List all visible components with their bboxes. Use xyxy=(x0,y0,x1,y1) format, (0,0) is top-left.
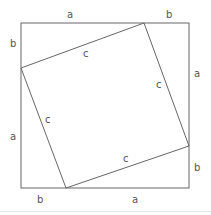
label-left-b: b xyxy=(10,38,16,49)
inner-square xyxy=(21,23,189,188)
outer-square xyxy=(21,23,189,188)
label-bottom-a: a xyxy=(132,194,138,205)
label-right-a: a xyxy=(194,68,200,79)
label-top-b: b xyxy=(166,9,172,20)
label-inner-top-c: c xyxy=(83,48,89,59)
label-left-a: a xyxy=(10,131,16,142)
label-inner-bottom-c: c xyxy=(123,153,129,164)
label-bottom-b: b xyxy=(37,194,43,205)
label-top-a: a xyxy=(67,9,73,20)
pythagorean-diagram: a b b a a b b a c c c c xyxy=(0,0,211,215)
label-inner-right-c: c xyxy=(156,79,162,90)
label-right-b: b xyxy=(194,162,200,173)
label-inner-left-c: c xyxy=(45,114,51,125)
